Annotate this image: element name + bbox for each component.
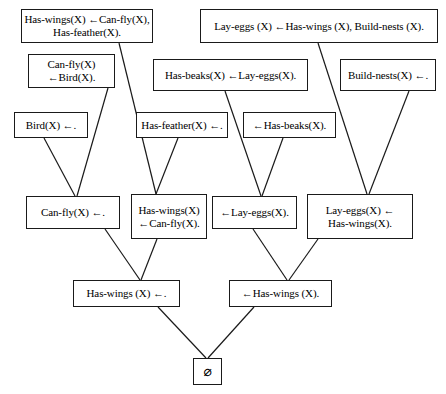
goal-lay-eggs-line-1: ←Lay-eggs(X). bbox=[213, 206, 296, 219]
goal-has-wings-line-1: ←Has-wings (X). bbox=[230, 287, 331, 300]
clause-has-wings-rule-line-2: Has-feather(X). bbox=[22, 26, 152, 39]
edge-goal-has-wings-to-empty-clause bbox=[208, 307, 254, 358]
edge-goal-lay-eggs-to-goal-has-wings bbox=[253, 229, 287, 280]
edge-has-feather-fact-to-has-wings-can-fly bbox=[156, 138, 178, 194]
clause-has-beaks-rule-line-1: Has-beaks(X) ←Lay-eggs(X). bbox=[154, 69, 307, 82]
goal-lay-eggs[interactable]: ←Lay-eggs(X). bbox=[212, 196, 297, 229]
derived-can-fly-fact-line-1: Can-fly(X) ←. bbox=[27, 206, 119, 219]
goal-has-wings[interactable]: ←Has-wings (X). bbox=[229, 280, 332, 307]
edge-build-nests-fact-to-lay-eggs-has-wings bbox=[369, 91, 409, 194]
derived-can-fly-fact[interactable]: Can-fly(X) ←. bbox=[26, 196, 120, 229]
clause-has-feather-fact-line-1: Has-feather(X) ←. bbox=[137, 119, 227, 132]
goal-has-beaks[interactable]: ←Has-beaks(X). bbox=[243, 112, 336, 138]
clause-lay-eggs-rule[interactable]: Lay-eggs (X) ←Has-wings (X), Build-nests… bbox=[200, 9, 438, 43]
edge-has-wings-can-fly-to-has-wings-fact bbox=[141, 239, 157, 280]
edge-goal-has-beaks-to-goal-lay-eggs bbox=[262, 138, 283, 196]
derived-has-wings-fact-line-1: Has-wings (X) ←. bbox=[74, 287, 179, 300]
derived-lay-eggs-from-has-wings-line-1: Lay-eggs(X) ← bbox=[308, 204, 412, 217]
edge-has-beaks-rule-to-goal-lay-eggs bbox=[225, 91, 261, 196]
empty-clause-line-1: ⌀ bbox=[194, 363, 221, 380]
clause-has-feather-fact[interactable]: Has-feather(X) ←. bbox=[136, 112, 228, 138]
clause-bird-fact[interactable]: Bird(X) ←. bbox=[14, 112, 88, 138]
empty-clause[interactable]: ⌀ bbox=[193, 358, 222, 385]
clause-has-beaks-rule[interactable]: Has-beaks(X) ←Lay-eggs(X). bbox=[153, 59, 308, 91]
clause-bird-fact-line-1: Bird(X) ←. bbox=[15, 119, 87, 132]
clause-build-nests-fact[interactable]: Build-nests(X) ←. bbox=[340, 59, 436, 91]
clause-build-nests-fact-line-1: Build-nests(X) ←. bbox=[341, 69, 435, 82]
clause-can-fly-rule-line-2: ←Bird(X). bbox=[29, 71, 114, 84]
goal-has-beaks-line-1: ←Has-beaks(X). bbox=[244, 119, 335, 132]
derived-lay-eggs-from-has-wings[interactable]: Lay-eggs(X) ←Has-wings(X). bbox=[307, 194, 413, 239]
edge-bird-fact-to-can-fly-fact bbox=[44, 138, 75, 196]
edge-can-fly-rule-to-can-fly-fact bbox=[77, 88, 108, 196]
derived-lay-eggs-from-has-wings-line-2: Has-wings(X). bbox=[308, 217, 412, 230]
clause-can-fly-rule-line-1: Can-fly(X) bbox=[29, 58, 114, 71]
derived-has-wings-fact[interactable]: Has-wings (X) ←. bbox=[73, 280, 180, 307]
clause-has-wings-rule-line-1: Has-wings(X) ←Can-fly(X), bbox=[22, 13, 152, 26]
edge-has-wings-fact-to-empty-clause bbox=[158, 307, 206, 358]
clause-has-wings-rule[interactable]: Has-wings(X) ←Can-fly(X),Has-feather(X). bbox=[21, 9, 153, 43]
edge-lay-eggs-has-wings-to-goal-has-wings bbox=[289, 239, 318, 280]
resolution-proof-diagram: Has-wings(X) ←Can-fly(X),Has-feather(X).… bbox=[0, 0, 446, 394]
clause-can-fly-rule[interactable]: Can-fly(X)←Bird(X). bbox=[28, 54, 115, 88]
clause-lay-eggs-rule-line-1: Lay-eggs (X) ←Has-wings (X), Build-nests… bbox=[201, 20, 437, 33]
derived-has-wings-from-can-fly-line-2: ←Can-fly(X). bbox=[132, 217, 206, 230]
derived-has-wings-from-can-fly[interactable]: Has-wings(X)←Can-fly(X). bbox=[131, 194, 207, 239]
derived-has-wings-from-can-fly-line-1: Has-wings(X) bbox=[132, 204, 206, 217]
